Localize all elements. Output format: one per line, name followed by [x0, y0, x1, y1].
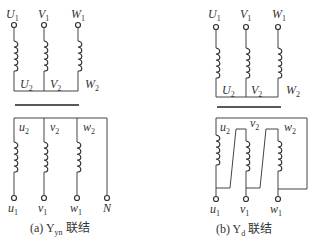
start-label-u2-b: u2: [220, 120, 230, 136]
coil-W-b: [278, 48, 282, 78]
delta-link-v-w: [246, 129, 278, 188]
terminal-U1-b: [214, 25, 219, 30]
end-label-W2: W2: [85, 77, 99, 93]
coil-u: [14, 142, 18, 172]
diagram-b-yd: U1 V1 W1 U2 V2 W2: [208, 7, 307, 238]
end-label-V2-b: V2: [251, 83, 262, 99]
delta-link-u-v: [216, 129, 246, 188]
terminal-W1-b: [276, 25, 281, 30]
terminal-V1: [42, 23, 47, 28]
terminal-label-N: N: [102, 201, 112, 215]
coil-v-b: [246, 141, 250, 171]
terminal-label-u1: u1: [8, 201, 18, 217]
terminal-label-w1-b: w1: [270, 202, 282, 218]
primary-winding-b: U1 V1 W1 U2 V2 W2: [208, 7, 300, 99]
coil-V: [44, 41, 48, 71]
coil-w-b: [278, 141, 282, 171]
terminal-label-U1: U1: [6, 7, 19, 23]
coil-w: [77, 142, 81, 172]
terminal-v1: [42, 196, 47, 201]
terminal-label-w1: w1: [70, 201, 82, 217]
terminal-w1: [75, 196, 80, 201]
terminal-N: [105, 196, 110, 201]
coil-U-b: [216, 48, 220, 78]
end-label-W2-b: W2: [286, 83, 300, 99]
start-label-v2: v2: [50, 120, 59, 136]
diagram-a-yyn: U1 V1 W1 U2 V2 W2: [6, 7, 112, 237]
coil-u-b: [216, 135, 220, 165]
terminal-label-U1-b: U1: [208, 7, 221, 23]
coil-V-b: [246, 48, 250, 78]
start-label-u2: u2: [19, 120, 29, 136]
transformer-connection-diagram: U1 V1 W1 U2 V2 W2: [0, 0, 313, 239]
terminal-v1-b: [244, 197, 249, 202]
terminal-label-v1-b: v1: [240, 202, 249, 218]
caption-a: (a) Yyn 联结: [30, 221, 90, 237]
start-label-w2: w2: [83, 120, 95, 136]
terminal-u1-b: [214, 197, 219, 202]
terminal-label-u1-b: u1: [210, 202, 220, 218]
terminal-label-v1: v1: [38, 201, 47, 217]
terminal-u1: [12, 196, 17, 201]
coil-U: [14, 41, 18, 71]
terminal-W1: [76, 23, 81, 28]
secondary-winding-a: u2 v2 w2 u1 v1 w1 N: [8, 118, 112, 217]
terminal-label-W1-b: W1: [272, 7, 286, 23]
caption-b: (b) Yd 联结: [216, 222, 272, 238]
end-label-U2-b: U2: [222, 83, 235, 99]
terminal-label-V1: V1: [38, 7, 49, 23]
secondary-winding-b: u2 v2 w2 u1 v1 w1: [210, 116, 307, 218]
primary-winding-a: U1 V1 W1 U2 V2 W2: [6, 7, 99, 93]
coil-W: [78, 41, 82, 71]
end-label-V2: V2: [50, 77, 61, 93]
end-label-U2: U2: [20, 77, 33, 93]
start-label-w2-b: w2: [284, 120, 296, 136]
terminal-label-W1: W1: [71, 7, 85, 23]
terminal-label-V1-b: V1: [240, 7, 251, 23]
terminal-V1-b: [244, 25, 249, 30]
coil-v: [44, 142, 48, 172]
terminal-U1: [12, 23, 17, 28]
terminal-w1-b: [276, 197, 281, 202]
